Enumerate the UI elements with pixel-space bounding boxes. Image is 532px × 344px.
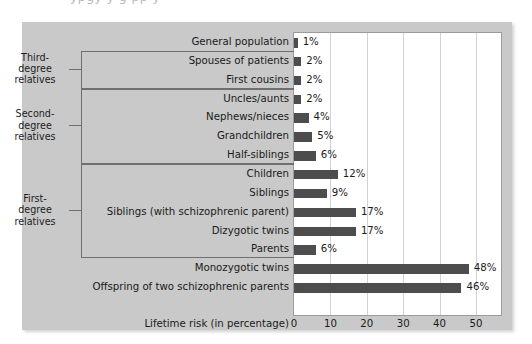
group-label-line: degree	[2, 120, 68, 131]
bar	[294, 151, 316, 161]
category-label: Offspring of two schizophrenic parents	[92, 281, 289, 292]
bar	[294, 38, 298, 48]
bar	[294, 170, 338, 180]
x-tick-label: 10	[324, 318, 337, 329]
group-label: Second-degreerelatives	[2, 108, 68, 142]
bar	[294, 264, 469, 274]
bar	[294, 227, 356, 237]
bar-value-label: 12%	[343, 168, 366, 179]
x-axis-title: Lifetime risk (in percentage)	[144, 318, 289, 329]
bar	[294, 76, 301, 86]
x-tick-label: 40	[433, 318, 446, 329]
bar-value-label: 2%	[306, 55, 322, 66]
cropped-caption-bleed: ypgy y g pp y	[0, 0, 532, 14]
group-label: First-degreerelatives	[2, 193, 68, 227]
bar-value-label: 17%	[361, 225, 384, 236]
group-label-line: First-	[2, 193, 68, 204]
group-bracket	[81, 164, 294, 258]
group-bracket-stem	[69, 125, 81, 126]
bar	[294, 95, 301, 105]
bar	[294, 245, 316, 255]
bar-value-label: 4%	[314, 111, 330, 122]
bar-row: General population1%	[22, 33, 512, 52]
x-tick-label: 0	[291, 318, 297, 329]
group-label-line: relatives	[2, 74, 68, 85]
cropped-caption-text: ypgy y g pp y	[70, 0, 160, 4]
x-tick-label: 30	[397, 318, 410, 329]
bar	[294, 57, 301, 67]
bar	[294, 113, 309, 123]
bar-row: Offspring of two schizophrenic parents46…	[22, 278, 512, 297]
bar-row: Monozygotic twins48%	[22, 259, 512, 278]
category-label: General population	[191, 36, 289, 47]
x-tick-label: 20	[360, 318, 373, 329]
bar	[294, 208, 356, 218]
category-label: Monozygotic twins	[195, 262, 289, 273]
bar	[294, 189, 327, 199]
bar-value-label: 2%	[306, 74, 322, 85]
group-label-line: degree	[2, 63, 68, 74]
bar-value-label: 1%	[303, 36, 319, 47]
group-label-line: Third-	[2, 52, 68, 63]
group-bracket-stem	[69, 210, 81, 211]
group-label-line: relatives	[2, 131, 68, 142]
bar-value-label: 5%	[317, 130, 333, 141]
bar	[294, 283, 461, 293]
group-bracket	[81, 51, 294, 89]
bar-value-label: 2%	[306, 93, 322, 104]
group-label-line: degree	[2, 204, 68, 215]
group-label-line: Second-	[2, 108, 68, 119]
figure-panel: General population1%Spouses of patients2…	[22, 22, 512, 330]
bar-value-label: 6%	[321, 149, 337, 160]
group-bracket-stem	[69, 69, 81, 70]
bar-value-label: 48%	[474, 262, 497, 273]
group-bracket	[81, 89, 294, 164]
group-label-line: relatives	[2, 216, 68, 227]
bar-value-label: 46%	[466, 281, 489, 292]
bar-value-label: 6%	[321, 243, 337, 254]
group-label: Third-degreerelatives	[2, 52, 68, 86]
bar-value-label: 9%	[332, 187, 348, 198]
bar-value-label: 17%	[361, 206, 384, 217]
bar	[294, 132, 312, 142]
x-tick-label: 50	[470, 318, 483, 329]
